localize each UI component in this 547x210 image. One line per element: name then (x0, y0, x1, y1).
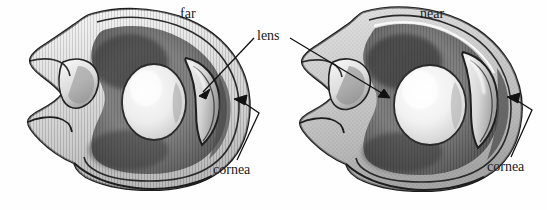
eye-accommodation-figure: far near lens cornea cornea (0, 0, 547, 210)
label-near: near (420, 7, 444, 21)
near-lens-highlight (402, 71, 438, 109)
label-cornea-far: cornea (213, 163, 250, 177)
label-lens: lens (257, 29, 280, 43)
label-far: far (180, 7, 196, 21)
far-lens-highlight (130, 70, 162, 106)
label-cornea-near: cornea (487, 160, 524, 174)
